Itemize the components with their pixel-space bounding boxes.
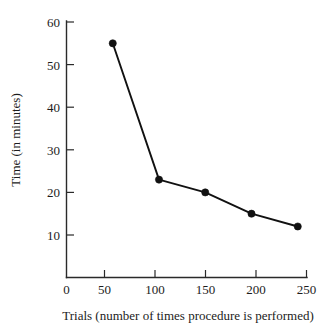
x-tick-label-0: 0 <box>63 282 70 297</box>
y-tick-label-40: 40 <box>47 100 60 115</box>
y-tick-marks <box>67 22 75 235</box>
y-tick-label-60: 60 <box>47 15 60 30</box>
x-tick-label-200: 200 <box>246 282 266 297</box>
x-tick-label-150: 150 <box>196 282 216 297</box>
x-tick-label-100: 100 <box>145 282 165 297</box>
data-point-150 <box>202 189 209 196</box>
data-point-200 <box>248 210 255 217</box>
x-axis-title: Trials (number of times procedure is per… <box>62 308 314 323</box>
y-tick-label-10: 10 <box>47 228 60 243</box>
y-tick-labels: 60 50 40 30 20 10 <box>47 15 60 243</box>
line-chart: 60 50 40 30 20 10 0 50 100 150 200 250 T… <box>0 0 332 331</box>
chart-container: 60 50 40 30 20 10 0 50 100 150 200 250 T… <box>0 0 332 331</box>
data-point-100 <box>155 176 162 183</box>
y-tick-label-20: 20 <box>47 185 60 200</box>
data-series <box>109 40 301 230</box>
data-point-50 <box>109 40 116 47</box>
x-tick-label-250: 250 <box>297 282 317 297</box>
series-line-0 <box>113 43 298 226</box>
x-tick-labels: 0 50 100 150 200 250 <box>63 282 316 297</box>
axes-group <box>67 21 308 278</box>
x-tick-marks <box>105 270 307 278</box>
x-tick-label-50: 50 <box>98 282 111 297</box>
y-tick-label-50: 50 <box>47 58 60 73</box>
data-point-250 <box>294 223 301 230</box>
y-tick-label-30: 30 <box>47 143 60 158</box>
y-axis-title: Time (in minutes) <box>8 93 23 186</box>
